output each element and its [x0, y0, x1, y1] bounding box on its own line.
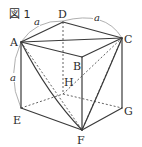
vertex-label-A: A: [9, 36, 19, 49]
edge-AB: [21, 42, 82, 57]
cube-diagram: a a a 図 1 D A C B H E F G: [0, 0, 142, 147]
vertex-label-F: F: [77, 134, 85, 147]
vertex-label-E: E: [13, 114, 21, 127]
vertex-label-H: H: [64, 76, 74, 89]
edge-CF: [82, 38, 122, 130]
edge-AC: [21, 38, 122, 42]
edge-EF: [21, 108, 82, 130]
length-label-DC: a: [94, 12, 100, 23]
edge-BC: [82, 38, 122, 57]
vertex-label-D: D: [58, 8, 67, 21]
edge-AD: [21, 22, 63, 42]
length-label-AE: a: [10, 72, 16, 83]
vertex-label-C: C: [124, 33, 132, 46]
edge-DC: [63, 22, 122, 38]
figure-title: 図 1: [9, 8, 31, 21]
vertex-label-G: G: [124, 105, 133, 118]
edge-FG: [82, 108, 122, 130]
length-label-AD: a: [34, 16, 40, 27]
vertex-label-B: B: [73, 60, 81, 73]
